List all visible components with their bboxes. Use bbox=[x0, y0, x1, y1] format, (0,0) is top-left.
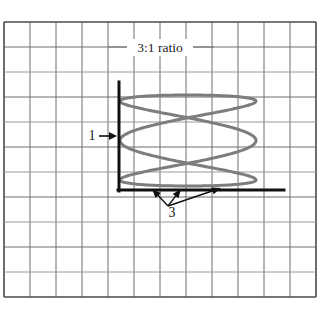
lissajous-figure-page: 3:1 ratio 1 3 bbox=[0, 0, 320, 312]
ratio-label: 3:1 ratio bbox=[137, 40, 183, 55]
lissajous-figure-svg: 3:1 ratio 1 3 bbox=[0, 0, 320, 312]
horizontal-count-label: 3 bbox=[169, 205, 176, 220]
vertical-count-label: 1 bbox=[89, 128, 96, 143]
